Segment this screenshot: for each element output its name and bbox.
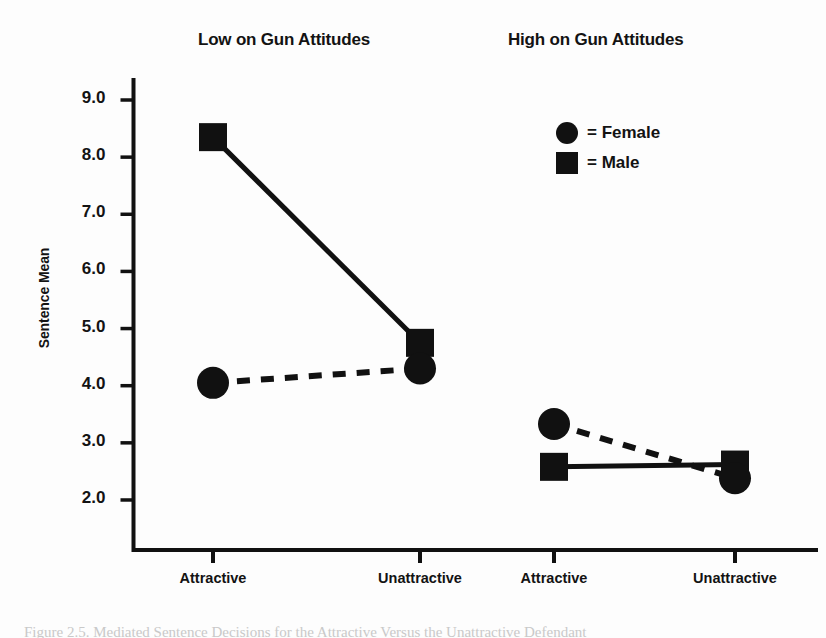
data-point-circle — [197, 367, 229, 399]
legend-label-female: = Female — [587, 123, 660, 143]
y-tick-label: 3.0 — [46, 431, 106, 451]
y-tick-label: 6.0 — [46, 259, 106, 279]
circle-marker-icon — [556, 122, 578, 144]
figure-chart: Low on Gun Attitudes High on Gun Attitud… — [0, 0, 826, 638]
y-tick-label: 2.0 — [46, 488, 106, 508]
data-point-circle — [404, 353, 436, 385]
x-tick-label: Attractive — [133, 570, 293, 586]
data-point-square — [540, 453, 568, 481]
series-line-female — [213, 369, 420, 383]
axes — [132, 78, 818, 552]
y-tick-label: 5.0 — [46, 317, 106, 337]
y-tick-label: 7.0 — [46, 202, 106, 222]
series-line-female — [554, 424, 735, 478]
y-tick-label: 4.0 — [46, 374, 106, 394]
data-point-circle — [538, 408, 570, 440]
data-point-circle — [719, 462, 751, 494]
x-tick-label: Unattractive — [655, 570, 815, 586]
legend-label-male: = Male — [587, 153, 639, 173]
series-line-male — [213, 137, 420, 343]
legend-item-male: = Male — [556, 148, 660, 178]
y-tick-label: 9.0 — [46, 88, 106, 108]
data-point-square — [199, 123, 227, 151]
plot-area — [0, 0, 826, 638]
series-line-male — [554, 465, 735, 467]
figure-caption: Figure 2.5. Mediated Sentence Decisions … — [24, 624, 814, 638]
square-marker-icon — [556, 152, 578, 174]
legend: = Female = Male — [556, 118, 660, 178]
legend-item-female: = Female — [556, 118, 660, 148]
data-series — [197, 123, 751, 494]
y-tick-label: 8.0 — [46, 145, 106, 165]
x-tick-label: Attractive — [474, 570, 634, 586]
